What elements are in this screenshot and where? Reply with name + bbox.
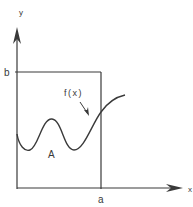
b-tick-label: b <box>4 67 10 78</box>
a-tick-label: a <box>98 194 104 205</box>
function-curve <box>17 95 125 150</box>
x-axis-label: x <box>188 185 192 194</box>
y-axis-label: y <box>19 8 23 17</box>
region-label: A <box>48 149 55 160</box>
diagram-canvas: y x b a f(x) A <box>0 0 193 207</box>
function-label: f(x) <box>64 88 83 98</box>
